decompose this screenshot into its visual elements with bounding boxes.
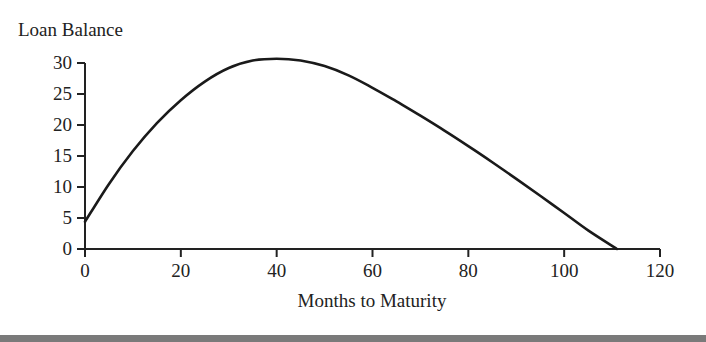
y-tick-label: 10 <box>53 176 72 197</box>
x-tick-label: 80 <box>459 260 478 281</box>
loan-balance-chart: Loan Balance 051015202530 02040608010012… <box>0 0 706 342</box>
y-tick-label: 0 <box>63 238 73 259</box>
bottom-divider-bar <box>0 335 706 342</box>
y-tick-label: 15 <box>53 145 72 166</box>
x-axis-ticks: 020406080100120 <box>80 249 674 281</box>
y-tick-label: 5 <box>63 207 73 228</box>
y-tick-label: 25 <box>53 83 72 104</box>
x-tick-label: 20 <box>171 260 190 281</box>
x-axis-title: Months to Maturity <box>298 290 447 311</box>
y-axis-title: Loan Balance <box>18 19 123 40</box>
y-tick-label: 20 <box>53 114 72 135</box>
x-tick-label: 40 <box>267 260 286 281</box>
loan-balance-line <box>85 59 617 249</box>
y-tick-label: 30 <box>53 52 72 73</box>
x-tick-label: 120 <box>646 260 675 281</box>
x-tick-label: 0 <box>80 260 90 281</box>
x-tick-label: 100 <box>550 260 579 281</box>
x-tick-label: 60 <box>363 260 382 281</box>
y-axis-ticks: 051015202530 <box>53 52 85 259</box>
